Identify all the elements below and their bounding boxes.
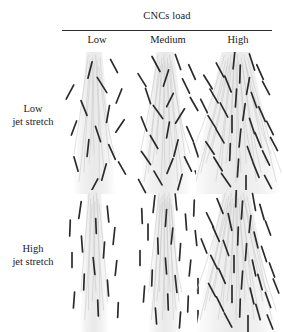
fiber-bundle-diagram (132, 52, 204, 194)
cnc-rod (107, 280, 108, 296)
fiber-bundle-diagram (62, 52, 132, 194)
column-label-low: Low (62, 33, 132, 46)
cnc-rod (236, 190, 237, 207)
cnc-rod (73, 292, 74, 308)
cnc-rod (119, 162, 126, 174)
diagram-cell-high-load-high-stretch (196, 190, 283, 332)
cnc-rod (187, 127, 194, 142)
cnc-rod (241, 201, 242, 219)
cnc-rod (240, 65, 241, 83)
cnc-rod (235, 89, 236, 107)
cnc-rod (116, 120, 124, 132)
cnc-rod (179, 244, 180, 261)
cnc-rod (204, 75, 212, 89)
cnc-rod (158, 238, 159, 254)
diagram-cell-medium-load-low-stretch (132, 52, 204, 194)
fiber-band (196, 52, 282, 194)
column-label-medium: Medium (132, 33, 204, 46)
cnc-rod (273, 279, 279, 293)
fiber-bundle-diagram (196, 190, 283, 332)
cnc-rod (81, 236, 82, 252)
diagram-cell-medium-load-high-stretch (132, 190, 204, 332)
cnc-rod (265, 221, 270, 235)
row-label-line1: High (2, 243, 64, 256)
cnc-rod (185, 214, 186, 230)
cnc-rod (179, 312, 180, 328)
cnc-rod (188, 296, 189, 312)
cnc-rod (66, 85, 74, 99)
cnc-rod (207, 213, 214, 227)
column-label-high: High (204, 33, 272, 46)
row-label-low-jet-stretch: Low jet stretch (2, 103, 64, 128)
cnc-rod (183, 79, 190, 93)
cnc-rod (146, 88, 151, 103)
fiber-bundle-diagram (62, 190, 132, 332)
cnc-rod (115, 261, 117, 276)
cnc-rod (189, 260, 191, 276)
cnc-rod (103, 242, 104, 258)
column-header-title: CNCs load (62, 10, 272, 22)
cnc-rod (194, 200, 195, 216)
row-label-line1: Low (2, 103, 64, 116)
cnc-rod (79, 202, 81, 219)
cnc-rod (70, 220, 71, 236)
cnc-rod (175, 55, 180, 70)
cnc-rod (143, 286, 144, 302)
cnc-rod (165, 210, 166, 227)
cnc-rod (253, 194, 256, 211)
fiber-bundle-diagram (132, 190, 204, 332)
cnc-rod (245, 244, 246, 261)
cnc-rod (113, 228, 115, 245)
cnc-rod (201, 239, 207, 253)
cnc-rod (155, 308, 156, 324)
cnc-rod (116, 89, 122, 103)
cnc-rod (98, 300, 99, 316)
cnc-rod (71, 121, 76, 135)
cnc-rod (230, 144, 231, 161)
cnc-rod (260, 204, 264, 219)
cnc-rod (96, 219, 97, 234)
fiber-bundle-diagram (196, 52, 283, 194)
diagram-cell-low-load-low-stretch (62, 52, 132, 194)
cnc-rod (142, 209, 143, 224)
cnc-rod (175, 194, 177, 210)
row-label-line2: jet stretch (2, 116, 64, 129)
cnc-rod (241, 271, 242, 289)
cnc-rod (201, 99, 208, 112)
cnc-rod (107, 206, 109, 222)
cnc-rod (189, 65, 196, 80)
diagram-cell-high-load-low-stretch (196, 52, 283, 194)
cnc-rod (168, 294, 169, 310)
cnc-rod (240, 299, 241, 317)
row-label-line2: jet stretch (2, 256, 64, 269)
cnc-rod (238, 227, 239, 245)
cnc-rod (263, 81, 270, 94)
fiber-band (139, 52, 191, 194)
cnc-rod (152, 270, 153, 286)
cnc-rod (84, 274, 85, 290)
header-rule (62, 30, 272, 31)
diagram-cell-low-load-high-stretch (62, 190, 132, 332)
cnc-rod (153, 196, 155, 213)
cnc-rod (257, 65, 264, 80)
cnc-rod (237, 159, 238, 177)
cnc-rod (118, 303, 119, 318)
cnc-rod (269, 263, 274, 277)
cnc-rod (165, 258, 166, 274)
cnc-rod (138, 74, 146, 87)
row-label-high-jet-stretch: High jet stretch (2, 243, 64, 268)
cnc-rod (111, 59, 118, 72)
